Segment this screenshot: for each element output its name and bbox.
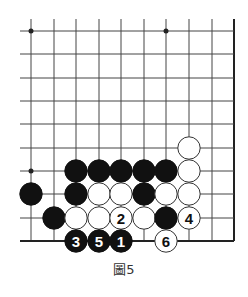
white-stone — [155, 183, 177, 205]
white-stone — [178, 183, 200, 205]
black-stone — [65, 160, 87, 182]
move-number: 4 — [185, 210, 194, 227]
white-stone — [65, 207, 87, 229]
black-stone — [20, 183, 42, 205]
black-stone — [65, 183, 87, 205]
black-stone-move-5: 5 — [88, 230, 110, 252]
white-stone — [88, 207, 110, 229]
white-stone-move-4: 4 — [178, 207, 200, 229]
white-stone — [178, 137, 200, 159]
white-stone-move-2: 2 — [110, 207, 132, 229]
figure-caption: 圖5 — [0, 259, 248, 278]
black-stone — [133, 160, 155, 182]
white-stone — [133, 207, 155, 229]
white-stone — [178, 160, 200, 182]
move-number: 3 — [72, 233, 80, 250]
star-point — [29, 29, 34, 34]
white-stone-move-6: 6 — [155, 230, 177, 252]
star-point — [29, 169, 34, 174]
black-stone-move-1: 1 — [110, 230, 132, 252]
move-number: 2 — [117, 210, 125, 227]
black-stone — [155, 207, 177, 229]
black-stone-move-3: 3 — [65, 230, 87, 252]
black-stone — [43, 207, 65, 229]
black-stone — [155, 160, 177, 182]
white-stone — [88, 183, 110, 205]
star-point — [164, 29, 169, 34]
go-board: 243516 — [0, 0, 248, 297]
move-number: 1 — [117, 233, 125, 250]
move-number: 6 — [162, 233, 170, 250]
move-number: 5 — [95, 233, 103, 250]
black-stone — [110, 160, 132, 182]
white-stone — [110, 183, 132, 205]
black-stone — [88, 160, 110, 182]
black-stone — [133, 183, 155, 205]
